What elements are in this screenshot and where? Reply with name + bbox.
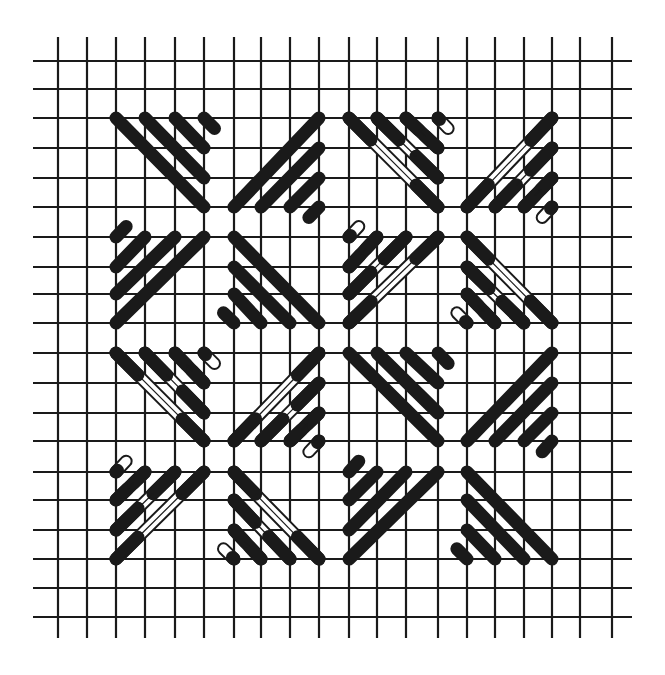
stitch-stub (116, 227, 126, 238)
stitch-fill-start (116, 508, 138, 530)
stitch-fill-end (153, 472, 175, 494)
stitch-fill-end (384, 237, 406, 259)
fan-bottom-left (116, 461, 204, 559)
fan-top-left (349, 118, 448, 207)
stitch-fill-start (349, 301, 371, 323)
stitch-diagram-canvas (0, 0, 665, 675)
fan-bottom-right (457, 472, 552, 559)
stitch-fill-end (182, 391, 204, 413)
fan-bottom-right (224, 237, 320, 323)
hollow-stitch-stub (204, 353, 215, 364)
stitch-fill (465, 321, 467, 323)
stitch-fill-end (234, 472, 256, 494)
stitch-fill-end (182, 472, 204, 494)
hollow-stitch-stub (438, 118, 448, 129)
stitch-fill-start (116, 489, 128, 500)
fan-bottom-left (349, 227, 438, 324)
stitch-fill-end (495, 185, 517, 207)
stitch-fill (317, 441, 319, 443)
stitch-fill-start (349, 272, 371, 294)
stitch-fill-end (467, 237, 489, 259)
stitch-fill-start (297, 383, 319, 405)
stitch-fill-start (269, 537, 290, 559)
stitch-fill-start (145, 353, 167, 375)
stitch-fill-start (175, 353, 187, 365)
stitch-fill-start (307, 413, 319, 424)
hollow-stitch-stub (542, 207, 552, 218)
stitch-fill-end (261, 419, 283, 441)
stitch-fill-end (467, 185, 488, 207)
hollow-stitch-stub (116, 461, 126, 472)
fan-top-left (349, 353, 448, 441)
stitch-fill (349, 235, 350, 237)
hollow-stitch-stub (349, 227, 359, 238)
stitch-fill-end (182, 419, 204, 441)
stitch-stub (438, 353, 448, 364)
stitch-fill-start (297, 353, 319, 375)
stitch-fill-start (349, 118, 371, 140)
hollow-stitch-stub (457, 313, 467, 323)
stitch-fill-start (531, 118, 552, 140)
stitch-fill-end (234, 500, 255, 522)
stitch-fill-start (116, 537, 138, 559)
stitch-stub (349, 461, 359, 472)
fan-bottom-left (116, 227, 204, 324)
stitch-fill-start (250, 547, 261, 559)
hollow-stitch-stub (309, 441, 319, 452)
stitch-fill-end (416, 237, 438, 259)
stitch-fill-end (467, 267, 489, 289)
fan-bottom-right (457, 237, 552, 323)
stitch-fill-end (234, 530, 245, 542)
stitch-fill-start (530, 301, 552, 323)
stitch-fill-end (234, 419, 256, 441)
fan-top-right (234, 353, 319, 452)
stitch-fill (116, 470, 118, 472)
stitch-fill (204, 353, 206, 355)
stitch-fill-start (484, 311, 495, 323)
fan-bottom-right (224, 472, 320, 559)
fan-top-left (116, 118, 215, 207)
stitch-fill-end (416, 156, 438, 178)
stitch-blocks (116, 118, 552, 559)
fan-top-right (467, 353, 552, 452)
stitch-fill-end (416, 185, 438, 207)
stitch-stub (309, 207, 319, 218)
stitch-fill-start (406, 118, 419, 130)
stitch-fill (551, 207, 552, 209)
stitch-fill-end (467, 294, 478, 306)
fan-bottom-left (349, 461, 438, 559)
stitch-stub (542, 441, 552, 452)
stitch-fill-start (349, 255, 360, 267)
stitch-fill-end (366, 237, 377, 249)
stitch-fill-start (377, 118, 399, 140)
stitch-stub (224, 313, 235, 323)
stitch-fill-end (425, 136, 438, 148)
stitch-stub (457, 549, 467, 559)
fan-top-right (467, 118, 552, 218)
stitch-fill-end (524, 195, 535, 207)
fan-top-right (234, 118, 319, 218)
stitch-stub (204, 118, 215, 129)
stitch-fill-start (541, 178, 552, 190)
hollow-stitch-stub (224, 549, 235, 559)
fan-top-left (116, 353, 215, 441)
stitch-fill (438, 118, 440, 120)
stitch-diagram (0, 0, 665, 675)
stitch-fill-start (530, 148, 552, 170)
stitch-fill-end (133, 472, 145, 483)
stitch-fill (232, 557, 234, 559)
stitch-fill-end (290, 430, 302, 441)
stitch-fill-start (502, 301, 524, 323)
stitch-fill-start (116, 353, 138, 375)
stitch-fill-end (192, 371, 204, 383)
stitch-fill-start (297, 537, 319, 559)
